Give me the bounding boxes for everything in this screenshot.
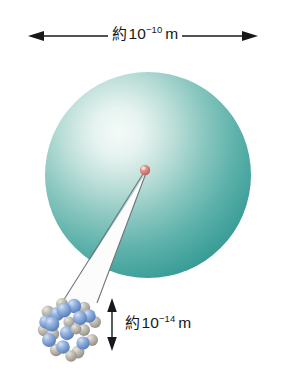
atom-size-mantissa: 10 (129, 25, 146, 42)
nucleus-point-highlight (142, 167, 145, 170)
atom-size-exponent: −10 (146, 24, 162, 35)
nucleon-cluster (38, 298, 101, 362)
atom-size-label: 約10−10m (112, 26, 178, 42)
nucleus-size-label: 約10−14m (125, 315, 191, 331)
figure-canvas: 約10−10m 約10−14m (0, 0, 286, 373)
nucleus-size-arrow (107, 298, 117, 351)
nucleus-size-unit: m (178, 314, 191, 331)
nucleus-size-exponent: −14 (159, 313, 175, 324)
nucleus-size-prefix: 約 (125, 314, 140, 332)
nucleus-size-mantissa: 10 (142, 314, 159, 331)
atom-size-unit: m (165, 25, 178, 42)
nucleus-point (140, 165, 150, 175)
electron-cloud-sphere (45, 72, 251, 278)
atom-size-prefix: 約 (112, 25, 127, 43)
